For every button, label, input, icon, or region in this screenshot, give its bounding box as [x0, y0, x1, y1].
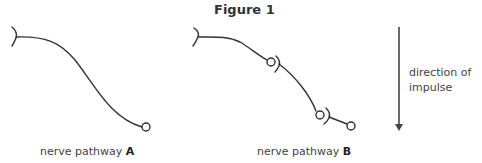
direction-label: direction of impulse	[409, 65, 471, 95]
pathway-b-label-text: nerve pathway	[257, 145, 343, 158]
neuron-b1-axon	[198, 37, 267, 60]
pathway-a-label-text: nerve pathway	[40, 145, 126, 158]
direction-label-line2: impulse	[409, 80, 471, 95]
neuron-b2-axon	[279, 64, 316, 111]
axon-terminal-icon	[347, 122, 355, 130]
synapse-dendrite-icon	[324, 108, 330, 124]
pathway-b	[193, 28, 355, 130]
neuron-a-axon	[16, 37, 142, 127]
pathway-b-letter: B	[343, 145, 351, 158]
axon-terminal-icon	[142, 123, 150, 131]
synapse-terminal-icon	[316, 111, 324, 119]
neuron-b3-axon	[329, 117, 347, 124]
synapse-terminal-icon	[267, 58, 275, 66]
pathway-a	[12, 27, 150, 131]
pathway-b-label: nerve pathway B	[257, 145, 351, 158]
direction-label-line1: direction of	[409, 65, 471, 80]
direction-arrow-icon	[395, 27, 403, 131]
pathway-a-letter: A	[126, 145, 135, 158]
pathway-a-label: nerve pathway A	[40, 145, 134, 158]
